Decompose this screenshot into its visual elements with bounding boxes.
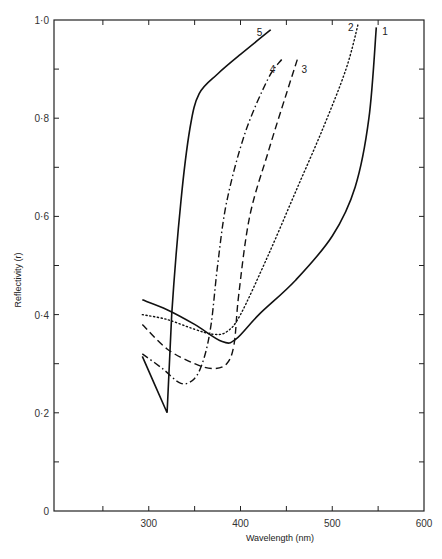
chart: 30040050060000·20·40·60·81·0 12345 Wavel…	[0, 0, 442, 559]
curve-1	[142, 27, 376, 343]
x-tick-label: 600	[416, 518, 433, 529]
y-tick-label: 0	[43, 506, 49, 517]
x-axis-title: Wavelength (nm)	[246, 533, 314, 543]
curve-label-3: 3	[301, 64, 307, 75]
x-tick-label: 400	[232, 518, 249, 529]
axes-frame	[54, 20, 424, 511]
curve-label-2: 2	[348, 22, 354, 33]
axis-ticks: 30040050060000·20·40·60·81·0	[35, 15, 433, 529]
curve-label-4: 4	[270, 64, 276, 75]
y-tick-label: 0·2	[35, 408, 50, 419]
x-tick-label: 500	[324, 518, 341, 529]
curve-5	[142, 30, 270, 413]
curve-3	[142, 59, 297, 368]
curve-label-1: 1	[382, 26, 388, 37]
plot-frame	[54, 20, 424, 511]
y-axis-title: Reflectivity (r)	[13, 252, 23, 307]
x-tick-label: 300	[140, 518, 157, 529]
curve-labels: 12345	[257, 22, 389, 75]
y-tick-label: 0·8	[35, 113, 50, 124]
curves	[142, 25, 376, 413]
curve-label-5: 5	[257, 27, 263, 38]
y-tick-label: 1·0	[35, 15, 50, 26]
y-tick-label: 0·6	[35, 211, 50, 222]
curve-2	[142, 25, 358, 335]
y-tick-label: 0·4	[35, 310, 50, 321]
